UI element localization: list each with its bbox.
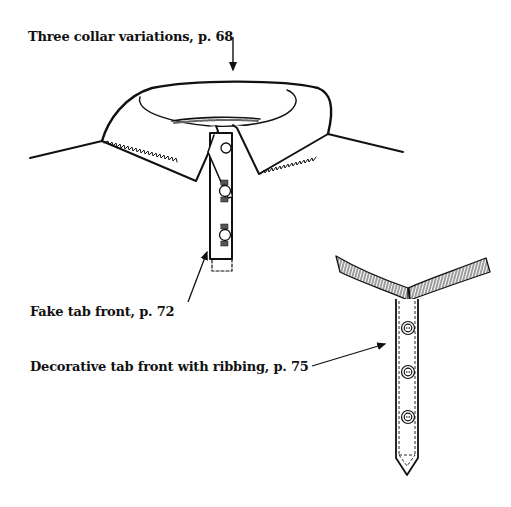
decorative-tab-arrow xyxy=(312,344,385,366)
fake-tab-arrow xyxy=(188,252,207,302)
shirt-collar-drawing xyxy=(30,82,403,271)
ribbed-tab-drawing xyxy=(336,256,490,475)
illustration-canvas xyxy=(0,0,511,507)
